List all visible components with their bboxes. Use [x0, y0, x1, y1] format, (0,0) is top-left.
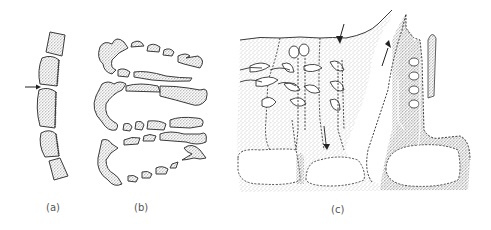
lumen-right [386, 145, 460, 187]
lumen-cavities [238, 145, 460, 187]
panel-label-b: (b) [134, 203, 148, 213]
panel-a [25, 32, 68, 180]
figure-canvas [0, 0, 491, 230]
panel-label-a: (a) [46, 203, 60, 213]
lumen-left [238, 149, 300, 185]
lumen-center [306, 157, 364, 186]
panel-label-c: (c) [331, 205, 344, 215]
cell-block [39, 56, 59, 86]
panel-b [94, 39, 207, 185]
cell-block [46, 32, 65, 56]
cell-block [49, 158, 68, 180]
cell-block [37, 88, 56, 128]
panel-c [237, 10, 470, 192]
arrow-icon [25, 85, 41, 90]
fold-knob [98, 140, 122, 186]
cell-block [40, 131, 59, 157]
fold-knob [94, 82, 126, 130]
